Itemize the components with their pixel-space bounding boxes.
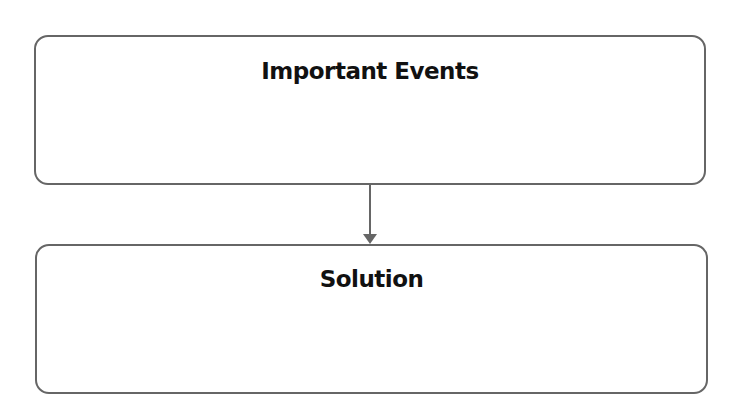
important-events-box: Important Events [34, 35, 706, 185]
solution-box: Solution [35, 244, 708, 394]
down-arrow-icon [360, 184, 380, 246]
important-events-title: Important Events [36, 58, 704, 84]
solution-title: Solution [37, 266, 706, 292]
